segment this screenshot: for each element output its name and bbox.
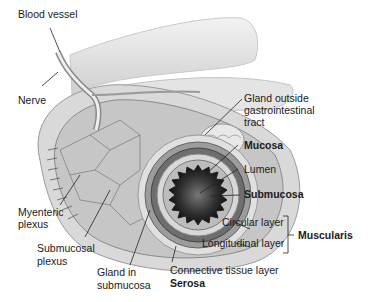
label-gland-outside-line1: Gland outside [244, 92, 309, 104]
label-myenteric-line1: Myenteric [18, 206, 64, 218]
label-submucosal-plexus-line2: plexus [37, 255, 67, 267]
label-longitudinal-layer: Longitudinal layer [202, 237, 284, 249]
gi-tract-diagram: Blood vessel Nerve Gland outside gastroi… [0, 0, 369, 302]
label-muscularis: Muscularis [298, 229, 353, 241]
label-gland-in-submucosa-line1: Gland in [97, 266, 136, 278]
label-nerve: Nerve [18, 94, 46, 106]
label-submucosa: Submucosa [244, 188, 304, 200]
label-gland-outside-line2: gastrointestinal [244, 104, 315, 116]
label-blood-vessel: Blood vessel [18, 8, 78, 20]
label-mucosa: Mucosa [244, 139, 283, 151]
label-gland-outside-line3: tract [244, 116, 264, 128]
label-myenteric-line2: plexus [18, 218, 48, 230]
label-circular-layer: Circular layer [222, 216, 284, 228]
label-gland-in-submucosa-line2: submucosa [97, 279, 151, 291]
label-submucosal-plexus-line1: Submucosal [37, 242, 95, 254]
label-connective-tissue-layer: Connective tissue layer [170, 264, 279, 276]
label-lumen: Lumen [244, 163, 276, 175]
label-serosa: Serosa [170, 277, 205, 289]
